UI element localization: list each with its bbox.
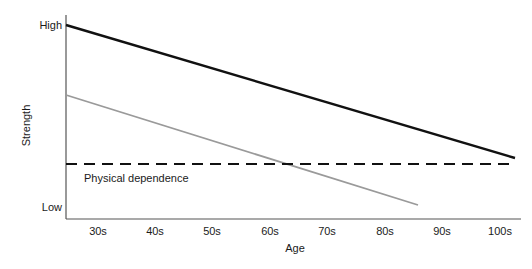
x-tick-label: 30s [68,226,128,237]
y-axis-low-label: Low [42,202,62,213]
x-tick-label: 80s [355,226,415,237]
y-axis-title: Strength [21,86,32,166]
x-tick-label: 90s [412,226,472,237]
physical-dependence-label: Physical dependence [84,173,189,184]
x-tick-label: 40s [125,226,185,237]
y-axis-high-label: High [39,20,62,31]
strength-vs-age-chart: High Low Strength Age Physical dependenc… [0,0,532,269]
x-tick-label: 50s [182,226,242,237]
x-axis-title: Age [255,243,335,254]
x-tick-label: 100s [470,226,530,237]
x-tick-label: 60s [240,226,300,237]
x-tick-label: 70s [297,226,357,237]
